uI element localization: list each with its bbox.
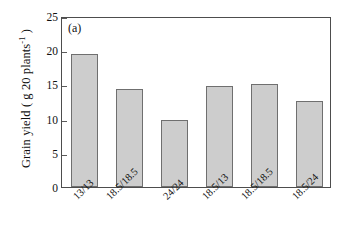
y-axis-title-text: Grain yield ( g 20 plants-1 ) (20, 28, 35, 167)
figure-container: Grain yield ( g 20 plants-1 ) 0510152025… (0, 0, 347, 244)
y-axis-tick-label: 15 (36, 79, 58, 91)
y-axis-tick-label: 20 (36, 45, 58, 57)
bar (71, 54, 98, 187)
y-axis-title-prefix: Grain yield ( g 20 plants (20, 43, 34, 167)
y-axis-tick-label: 25 (36, 11, 58, 23)
x-axis-tick-labels: 13/1318.5/18.524/2418.5/1318.5/18.518.5/… (61, 188, 331, 244)
bar (161, 120, 188, 187)
y-axis-tick-label: 5 (36, 148, 58, 160)
y-axis-tick-labels: 0510152025 (36, 10, 58, 194)
bar (206, 86, 233, 187)
y-axis-tick-label: 0 (36, 182, 58, 194)
y-axis-title-exponent: -1 (18, 36, 27, 43)
bar-series (62, 18, 330, 187)
y-axis-tick-label: 10 (36, 114, 58, 126)
y-axis-title-suffix: ) (20, 28, 34, 36)
plot-area: (a) (61, 17, 331, 188)
